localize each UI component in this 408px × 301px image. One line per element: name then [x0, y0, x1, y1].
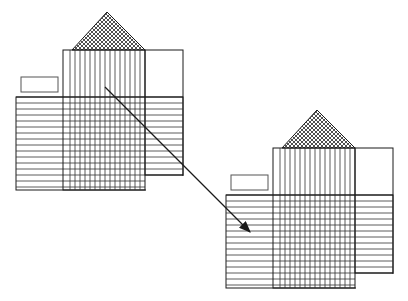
diagram-canvas: [0, 0, 408, 301]
figure-source: [16, 12, 186, 192]
figure-target: [226, 110, 396, 290]
